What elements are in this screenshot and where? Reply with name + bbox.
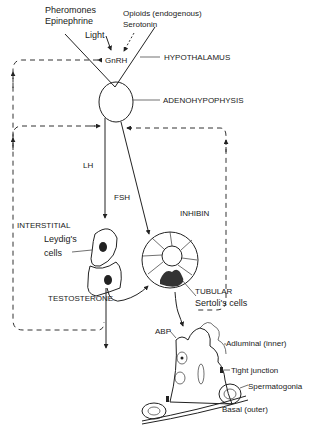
- label-adluminal: Adluminal (inner): [226, 339, 287, 348]
- label-lh: LH: [83, 161, 93, 170]
- label-hypothalamus: HYPOTHALAMUS: [164, 53, 230, 62]
- leydig-leader: [72, 250, 92, 252]
- adenohypophysis-oval: [99, 82, 133, 122]
- label-abp: ABP: [155, 327, 171, 336]
- label-sertolis-cells: Sertoli's cells: [195, 298, 248, 308]
- label-adenohypophysis: ADENOHYPOPHYSIS: [163, 96, 243, 105]
- label-leydig-cells: cells: [44, 248, 63, 258]
- tight-junction-marker: [220, 367, 223, 373]
- spermatogonium-left-nucleus: [148, 407, 160, 415]
- label-basal: Basal (outer): [222, 405, 268, 414]
- fsh-arrow: [121, 122, 149, 234]
- diagram-canvas: Pheromones Epinephrine Light Opioids (en…: [0, 0, 312, 429]
- tubule-lumen: [162, 246, 182, 266]
- serotonin-dashed-arrow: [124, 33, 134, 51]
- spermatid-upper-nucleus: [181, 357, 184, 360]
- tubular-leader: [182, 280, 196, 296]
- label-interstitial: INTERSTITIAL: [17, 221, 71, 230]
- adluminal-wavy-edge: [200, 322, 226, 354]
- detail-arrow: [175, 292, 183, 326]
- outer-feedback-loop: [13, 60, 98, 148]
- leydig-nucleus-upper: [99, 242, 107, 252]
- label-testosterone: TESTOSTERONE: [48, 294, 113, 303]
- label-tight-junction: Tight junction: [231, 366, 278, 375]
- label-tubular: TUBULAR: [195, 287, 233, 296]
- label-pheromones: Pheromones: [45, 5, 97, 15]
- spermatogonia-leader: [240, 385, 248, 388]
- tubule-spokes: [143, 232, 197, 275]
- label-serotonin: Serotonin: [123, 20, 157, 29]
- spermatid-elongated: [198, 364, 204, 384]
- sertoli-cells-cluster: [160, 270, 183, 287]
- label-leydigs: Leydig's: [44, 234, 77, 244]
- spermatid-lower: [175, 372, 185, 384]
- label-light: Light: [85, 30, 105, 40]
- label-fsh: FSH: [114, 193, 130, 202]
- label-spermatogonia: Spermatogonia: [248, 382, 303, 391]
- sertoli-cell-outline: [170, 328, 232, 404]
- leydig-nucleus-lower: [104, 275, 112, 285]
- light-arrow: [106, 36, 111, 50]
- diagram-svg: Pheromones Epinephrine Light Opioids (en…: [0, 0, 312, 429]
- label-opioids: Opioids (endogenous): [123, 9, 202, 18]
- label-gnrh: GnRH: [105, 56, 127, 65]
- label-epinephrine: Epinephrine: [45, 16, 93, 26]
- tight-junction-marker-left: [166, 396, 169, 402]
- label-inhibin: INHIBIN: [180, 209, 210, 218]
